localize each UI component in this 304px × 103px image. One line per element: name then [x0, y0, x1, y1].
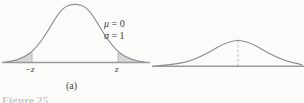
mu-value: 0: [120, 18, 125, 29]
panel-a-caption: (a): [66, 80, 77, 91]
sigma-symbol: σ: [104, 30, 109, 41]
right-tail-shaded-region: [118, 51, 145, 62]
x-tick-label-negative-z: −z: [25, 64, 35, 74]
normal-curve-b: [154, 40, 302, 66]
figure-caption: Figure 25: [2, 94, 49, 103]
sigma-value: 1: [120, 30, 125, 41]
mu-symbol: μ: [104, 18, 109, 29]
panel-b-plot: [152, 0, 304, 103]
panel-a-sigma-line: σ = 1: [104, 30, 125, 42]
panel-a: μ = 0 σ = 1 −z z (a): [0, 0, 152, 103]
left-tail-shaded-region: [5, 51, 32, 62]
panel-a-parameter-annotations: μ = 0 σ = 1: [104, 18, 125, 41]
mu-equals-sign: =: [112, 18, 118, 29]
sigma-equals-sign: =: [111, 30, 117, 41]
panel-a-mu-line: μ = 0: [104, 18, 125, 30]
normal-distribution-figure: μ = 0 σ = 1 −z z (a) μ =: [0, 0, 304, 103]
panel-b: μ = 90 σ = 8 90 (b): [152, 0, 304, 103]
x-tick-label-positive-z: z: [115, 64, 119, 74]
